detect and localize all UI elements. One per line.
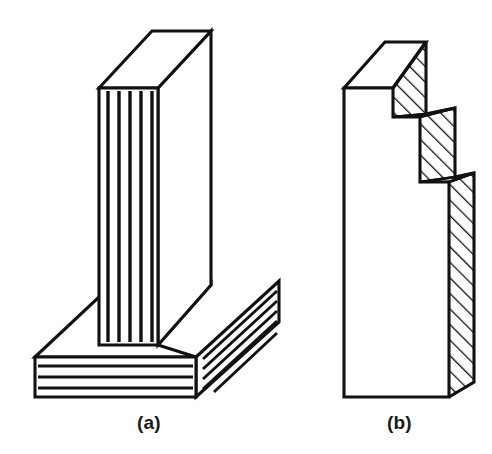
vertical-slab-front-face [99,88,158,345]
isometric-figure-svg [0,0,492,454]
part-a-group [35,31,279,397]
figure-container: (a) (b) [0,0,492,454]
part-b-group [344,30,490,410]
caption-part-b: (b) [387,412,412,434]
base-slab-right-end-face [196,281,279,397]
caption-part-a: (a) [137,412,161,434]
base-slab-front-face [35,357,196,397]
